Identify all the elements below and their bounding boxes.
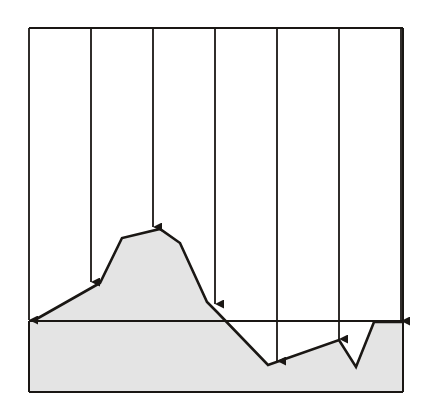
terrain-profile-diagram: [0, 0, 433, 416]
